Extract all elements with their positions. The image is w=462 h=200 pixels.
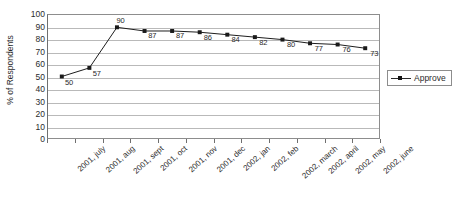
x-axis-tick-label: 2002, jan bbox=[242, 144, 272, 173]
y-axis-tick-label: 80 bbox=[20, 35, 45, 44]
x-axis-tick-label: 2001, aug bbox=[104, 144, 136, 175]
x-axis-tick bbox=[297, 139, 298, 143]
data-point-label: 82 bbox=[259, 39, 267, 47]
y-axis-tick-label: 10 bbox=[20, 122, 45, 131]
x-axis-tick bbox=[103, 139, 104, 143]
data-point-label: 87 bbox=[176, 32, 184, 40]
y-axis-tick-label: 60 bbox=[20, 60, 45, 69]
y-axis-title: % of Respondents bbox=[0, 0, 20, 140]
data-point-label: 50 bbox=[65, 79, 73, 87]
y-axis-tick-label: 100 bbox=[20, 10, 45, 19]
x-axis-tick-label: 2002, june bbox=[382, 144, 416, 176]
x-axis-tick bbox=[214, 139, 215, 143]
data-point-label: 87 bbox=[148, 32, 156, 40]
y-axis-tick-label: 20 bbox=[20, 110, 45, 119]
x-axis-tick-labels: 2001, july2001, aug2001, sept2001, oct20… bbox=[0, 144, 462, 200]
line-chart: % of Respondents 0102030405060708090100 … bbox=[0, 0, 462, 200]
x-axis-tick bbox=[269, 139, 270, 143]
data-point-label: 76 bbox=[342, 46, 350, 54]
x-axis-tick bbox=[352, 139, 353, 143]
x-axis-tick bbox=[158, 139, 159, 143]
y-axis-tick-label: 40 bbox=[20, 85, 45, 94]
y-axis-tick-label: 70 bbox=[20, 47, 45, 56]
x-axis-tick-label: 2001, sept bbox=[132, 144, 166, 176]
x-axis-tick bbox=[130, 139, 131, 143]
data-point-label: 90 bbox=[116, 17, 124, 25]
data-point-label: 80 bbox=[287, 41, 295, 49]
y-axis-tick-label: 30 bbox=[20, 97, 45, 106]
x-axis-tick bbox=[241, 139, 242, 143]
x-axis-tick bbox=[47, 139, 48, 143]
plot-area: 505790878786848280777673 bbox=[47, 14, 380, 139]
legend-item-label: Approve bbox=[414, 73, 446, 83]
x-axis-tick bbox=[186, 139, 187, 143]
y-axis-tick-label: 90 bbox=[20, 22, 45, 31]
y-axis-tick-label: 50 bbox=[20, 72, 45, 81]
x-axis-tick-label: 2001, july bbox=[76, 144, 107, 174]
legend-marker-icon bbox=[391, 74, 411, 83]
data-point-label: 86 bbox=[204, 34, 212, 42]
data-point-label: 84 bbox=[231, 36, 239, 44]
data-point-label: 73 bbox=[370, 50, 378, 58]
data-point-labels: 505790878786848280777673 bbox=[48, 15, 379, 138]
y-axis-tick-label: 0 bbox=[20, 135, 45, 144]
x-axis-tick bbox=[380, 139, 381, 143]
y-axis-tick-labels: 0102030405060708090100 bbox=[20, 9, 45, 141]
x-axis-tick-label: 2001, dec bbox=[215, 144, 247, 174]
x-axis-tick-label: 2001, nov bbox=[187, 144, 219, 174]
data-point-label: 77 bbox=[315, 45, 323, 53]
x-axis-tick bbox=[325, 139, 326, 143]
data-point-label: 57 bbox=[93, 70, 101, 78]
x-axis-tick-label: 2002, feb bbox=[270, 144, 301, 173]
legend: Approve bbox=[387, 70, 452, 86]
x-axis-tick bbox=[75, 139, 76, 143]
y-axis-title-text: % of Respondents bbox=[5, 35, 15, 104]
